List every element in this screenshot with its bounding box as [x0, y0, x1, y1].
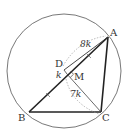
label-d: D [55, 58, 63, 69]
segment-dm [64, 70, 67, 74]
label-c: C [102, 112, 110, 123]
label-b: B [18, 112, 25, 123]
label-8k: 8k [80, 39, 91, 49]
side-ba [29, 37, 108, 112]
label-7k: 7k [70, 89, 81, 99]
circumcircle [7, 14, 121, 128]
side-ac [101, 37, 108, 112]
label-k: k [56, 70, 61, 80]
label-m: M [74, 71, 84, 82]
geometry-diagram: A B C D M 8k k 7k [0, 0, 129, 135]
label-a: A [109, 27, 118, 38]
